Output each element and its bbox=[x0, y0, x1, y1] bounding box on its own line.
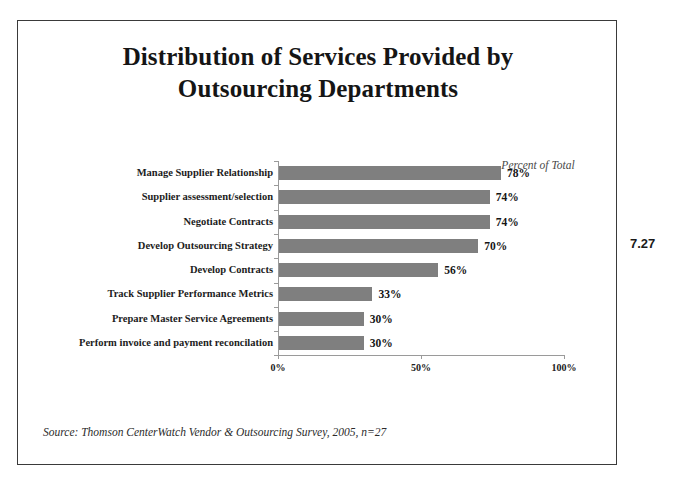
y-axis-tick bbox=[274, 331, 278, 332]
source-note: Source: Thomson CenterWatch Vendor & Out… bbox=[43, 426, 386, 438]
bar-row: Supplier assessment/selection 74% bbox=[18, 185, 618, 209]
page-title: Distribution of Services Provided by Out… bbox=[18, 41, 618, 105]
bar-row: Prepare Master Service Agreements 30% bbox=[18, 307, 618, 331]
bar bbox=[278, 263, 438, 277]
bar-row: Develop Contracts 56% bbox=[18, 258, 618, 282]
bar bbox=[278, 312, 364, 326]
y-axis-tick bbox=[274, 234, 278, 235]
category-label: Develop Contracts bbox=[43, 258, 273, 282]
category-label: Supplier assessment/selection bbox=[43, 185, 273, 209]
bar-value-label: 70% bbox=[484, 239, 507, 253]
bar-value-label: 74% bbox=[496, 215, 519, 229]
x-axis-tick bbox=[278, 355, 279, 359]
bar-row: Develop Outsourcing Strategy 70% bbox=[18, 234, 618, 258]
y-axis-tick bbox=[274, 185, 278, 186]
category-label: Perform invoice and payment reconcilatio… bbox=[43, 331, 273, 355]
title-line-1: Distribution of Services Provided by bbox=[123, 43, 514, 70]
y-axis-line bbox=[278, 161, 279, 355]
category-label: Negotiate Contracts bbox=[43, 210, 273, 234]
bar-value-label: 30% bbox=[370, 336, 393, 350]
bar-track: 30% bbox=[278, 312, 564, 326]
y-axis-tick bbox=[274, 283, 278, 284]
bar-value-label: 74% bbox=[496, 190, 519, 204]
page-number: 7.27 bbox=[630, 236, 655, 251]
bar bbox=[278, 190, 490, 204]
category-label: Develop Outsourcing Strategy bbox=[43, 234, 273, 258]
bar-track: 74% bbox=[278, 190, 564, 204]
bar-value-label: 33% bbox=[378, 287, 401, 301]
bar-row: Negotiate Contracts 74% bbox=[18, 210, 618, 234]
bar-track: 74% bbox=[278, 215, 564, 229]
bar bbox=[278, 239, 478, 253]
bar bbox=[278, 287, 372, 301]
bar-value-label: 78% bbox=[507, 166, 530, 180]
y-axis-tick bbox=[274, 210, 278, 211]
x-axis-tick-label: 50% bbox=[391, 362, 451, 373]
bar-track: 56% bbox=[278, 263, 564, 277]
bar-value-label: 30% bbox=[370, 312, 393, 326]
x-axis-tick-label: 100% bbox=[534, 362, 594, 373]
title-line-2: Outsourcing Departments bbox=[18, 73, 618, 105]
category-label: Manage Supplier Relationship bbox=[43, 161, 273, 185]
bar-row: Track Supplier Performance Metrics 33% bbox=[18, 282, 618, 306]
x-axis-tick bbox=[564, 355, 565, 359]
bar-row: Manage Supplier Relationship 78% bbox=[18, 161, 618, 185]
slide-frame: Distribution of Services Provided by Out… bbox=[17, 20, 617, 465]
y-axis-tick bbox=[274, 258, 278, 259]
bar bbox=[278, 215, 490, 229]
bar-value-label: 56% bbox=[444, 263, 467, 277]
y-axis-tick bbox=[274, 307, 278, 308]
category-label: Track Supplier Performance Metrics bbox=[43, 282, 273, 306]
x-axis-tick-label: 0% bbox=[248, 362, 308, 373]
bar-track: 33% bbox=[278, 287, 564, 301]
bar bbox=[278, 166, 501, 180]
bar-track: 30% bbox=[278, 336, 564, 350]
category-label: Prepare Master Service Agreements bbox=[43, 307, 273, 331]
bar-chart-plot-area: Manage Supplier Relationship 78% Supplie… bbox=[18, 161, 618, 391]
bar bbox=[278, 336, 364, 350]
bar-track: 70% bbox=[278, 239, 564, 253]
x-axis-tick bbox=[421, 355, 422, 359]
bar-track: 78% bbox=[278, 166, 564, 180]
bar-row: Perform invoice and payment reconcilatio… bbox=[18, 331, 618, 355]
y-axis-tick bbox=[274, 161, 278, 162]
